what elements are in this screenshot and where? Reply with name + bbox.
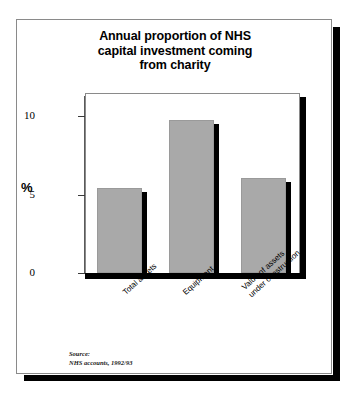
figure-drop-shadow-bottom	[24, 375, 340, 381]
y-axis-tick	[78, 195, 85, 196]
bar-fill	[97, 188, 142, 273]
y-axis-tick	[78, 273, 85, 274]
y-axis-tick-label: 0	[30, 267, 36, 278]
y-axis-tick-label: 5	[30, 189, 36, 200]
bar	[97, 188, 142, 273]
chart-title: Annual proportion of NHS capital investm…	[17, 29, 333, 73]
bar	[169, 120, 214, 273]
figure-drop-shadow-right	[333, 27, 340, 381]
y-axis-tick-label: 10	[24, 110, 35, 121]
source-note: Source: NHS accounts, 1992/93	[69, 350, 132, 367]
bar-edge-shadow	[214, 124, 219, 273]
plot-area	[85, 93, 300, 273]
bar-edge-shadow	[142, 192, 147, 273]
plot-right-edge-shadow	[300, 97, 306, 277]
figure-frame: Annual proportion of NHS capital investm…	[16, 19, 332, 374]
y-axis-tick	[78, 116, 85, 117]
bar-fill	[169, 120, 214, 273]
